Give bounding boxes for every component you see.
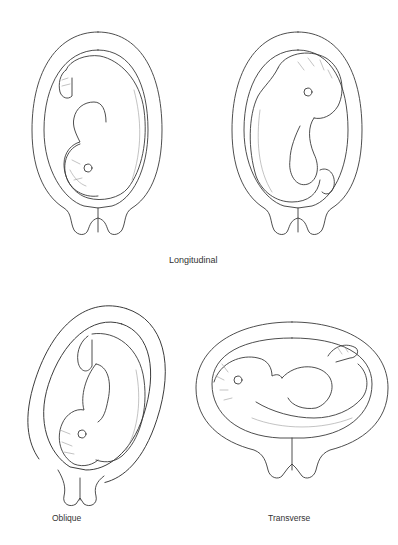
uterus-diagram-transverse	[192, 318, 392, 498]
uterus-diagram-longitudinal-cephalic	[228, 30, 368, 240]
fetus-oblique-illustration	[22, 300, 172, 510]
caption-longitudinal: Longitudinal	[169, 255, 218, 265]
fetus-cephalic-illustration	[228, 30, 368, 240]
fetus-transverse-illustration	[192, 318, 392, 498]
caption-transverse: Transverse	[268, 513, 310, 523]
caption-oblique: Oblique	[52, 513, 81, 523]
uterus-diagram-oblique	[22, 300, 172, 510]
uterus-diagram-longitudinal-breech	[28, 30, 168, 240]
fetus-breech-illustration	[28, 30, 168, 240]
